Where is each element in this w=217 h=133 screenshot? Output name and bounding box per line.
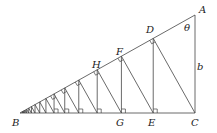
right-angle-marks (51, 40, 158, 113)
label-C: C (191, 117, 199, 128)
label-E: E (147, 117, 156, 128)
diagram-lines (20, 15, 195, 113)
label-B: B (11, 117, 19, 128)
label-F: F (115, 46, 124, 57)
label-D: D (145, 24, 154, 35)
label-b: b (197, 61, 203, 72)
label-theta: θ (184, 22, 190, 33)
label-H: H (91, 59, 101, 70)
triangle-diagram: A B C D E F G H θ b (0, 0, 217, 133)
label-A: A (198, 4, 206, 15)
label-G: G (116, 117, 124, 128)
